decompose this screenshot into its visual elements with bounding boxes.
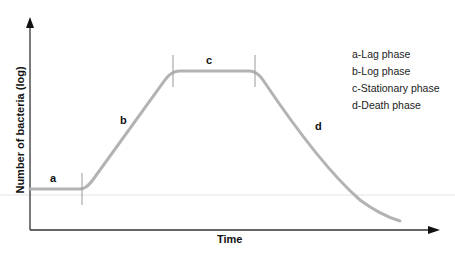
x-axis-arrow-icon [428, 226, 440, 234]
phase-label-a: a [50, 172, 56, 184]
phase-label-c: c [206, 54, 212, 66]
legend: a-Lag phase b-Log phase c-Stationary pha… [352, 46, 440, 114]
legend-item-death: d-Death phase [352, 97, 440, 114]
legend-item-stationary: c-Stationary phase [352, 80, 440, 97]
growth-curve [30, 71, 400, 221]
growth-curve-plot [0, 0, 455, 260]
legend-item-lag: a-Lag phase [352, 46, 440, 63]
y-axis-label: Number of bacteria (log) [14, 66, 26, 193]
y-axis-arrow-icon [26, 17, 34, 28]
phase-label-d: d [315, 120, 322, 132]
phase-label-b: b [120, 114, 127, 126]
x-axis-label: Time [217, 233, 242, 245]
legend-item-log: b-Log phase [352, 63, 440, 80]
